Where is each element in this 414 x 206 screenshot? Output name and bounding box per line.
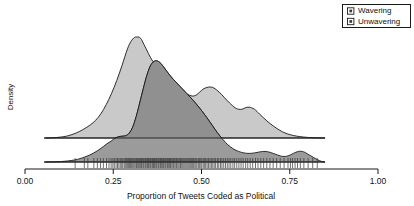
legend-swatch-fill — [349, 20, 352, 23]
x-axis-title: Proportion of Tweets Coded as Political — [127, 191, 275, 201]
series-legend[interactable]: WaveringUnwavering — [343, 5, 411, 28]
x-axis-tick-label: 0.25 — [105, 176, 122, 186]
x-axis-tick-label: 1.00 — [370, 176, 387, 186]
density-ridgeline-chart: 0.000.250.500.751.00 Proportion of Tweet… — [0, 0, 414, 206]
y-axis-title: Density — [6, 84, 15, 111]
x-axis-tick-label: 0.50 — [193, 176, 210, 186]
chart-canvas: 0.000.250.500.751.00 Proportion of Tweet… — [0, 0, 414, 206]
legend-swatch-fill — [349, 10, 352, 13]
legend-label: Wavering — [358, 6, 392, 15]
legend-label: Unwavering — [358, 17, 400, 26]
x-axis-tick-label: 0.75 — [281, 176, 298, 186]
x-axis-tick-label: 0.00 — [17, 176, 34, 186]
